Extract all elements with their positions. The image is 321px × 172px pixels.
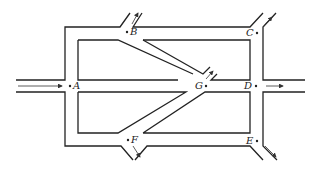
node-E-label: E (245, 135, 254, 146)
node-A-dot (69, 85, 71, 87)
node-B-label: B (129, 26, 137, 37)
node-A-label: A (72, 80, 80, 91)
node-F-dot (127, 139, 129, 141)
node-F-label: F (130, 134, 139, 145)
node-E-dot (256, 140, 258, 142)
road-network-diagram: A B C D E F G (0, 0, 321, 172)
node-D-label: D (243, 80, 252, 91)
node-markers: A B C D E F G (69, 26, 258, 146)
node-C-dot (256, 32, 258, 34)
node-G-dot (205, 85, 207, 87)
arrow-out-F (133, 146, 140, 157)
node-C-label: C (246, 27, 254, 38)
arrow-out-G (206, 71, 213, 79)
node-G-label: G (195, 80, 203, 91)
arrow-out-E (265, 146, 276, 157)
arrow-out-C (263, 17, 272, 27)
arrow-out-B (132, 13, 138, 24)
node-B-dot (126, 31, 128, 33)
node-D-dot (255, 85, 257, 87)
road-outlines (16, 13, 305, 160)
